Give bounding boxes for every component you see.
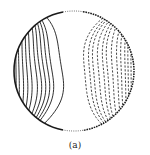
- positive-contour-line: [20, 9, 32, 133]
- negative-contour-line: [125, 9, 131, 133]
- negative-contour-line: [131, 9, 133, 133]
- negative-contour-line: [84, 9, 115, 133]
- negative-contour-line: [117, 9, 128, 133]
- dotted-boundary-arc-bottom: [63, 130, 83, 131]
- dotted-boundary-arc-top: [63, 11, 83, 12]
- positive-contour-line: [15, 9, 16, 133]
- contour-plot: [0, 0, 150, 155]
- dashed-boundary-arc: [83, 12, 134, 131]
- solid-boundary-arc: [14, 12, 63, 130]
- negative-contour-line: [111, 9, 125, 133]
- panel-label: (a): [0, 140, 150, 150]
- positive-contour-line: [17, 9, 23, 133]
